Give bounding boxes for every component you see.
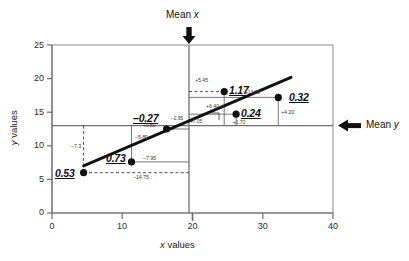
scatter-plot-svg bbox=[0, 0, 409, 261]
deviation-label-9: +6.40 bbox=[206, 104, 219, 109]
x-tick-40: 40 bbox=[324, 222, 342, 231]
x-axis bbox=[52, 213, 333, 221]
deviation-label-12: +4.20 bbox=[281, 110, 294, 115]
plot-frame bbox=[52, 45, 333, 213]
data-point bbox=[221, 88, 228, 95]
y-tick-5: 5 bbox=[30, 175, 44, 184]
x-tick-30: 30 bbox=[254, 222, 272, 231]
deviation-label-5: +0.80 bbox=[143, 123, 155, 128]
mean-x-italic: x bbox=[194, 9, 199, 20]
deviation-label-2: –14.75 bbox=[133, 175, 149, 180]
x-tick-0: 0 bbox=[45, 222, 59, 231]
y-tick-25: 25 bbox=[24, 41, 44, 50]
y-axis bbox=[47, 45, 52, 213]
chart-figure: 0 5 10 15 20 25 0 10 20 30 40 x values y… bbox=[0, 0, 409, 261]
deviation-label-8: +5.45 bbox=[195, 78, 208, 83]
y-tick-10: 10 bbox=[24, 141, 44, 150]
data-point bbox=[275, 94, 282, 101]
mean-y-prefix: Mean bbox=[366, 119, 394, 130]
y-axis-title: y values bbox=[9, 98, 19, 158]
x-axis-title: x values bbox=[160, 240, 195, 250]
x-tick-10: 10 bbox=[113, 222, 131, 231]
point-label-5: 0.24 bbox=[241, 108, 261, 119]
mean-y-label: Mean y bbox=[366, 120, 399, 130]
data-point bbox=[163, 125, 170, 132]
mean-y-italic: y bbox=[394, 119, 399, 130]
point-label-1: 0.53 bbox=[55, 168, 75, 179]
deviation-label-7: +7.05 bbox=[190, 119, 202, 124]
point-label-6: 0.32 bbox=[289, 92, 309, 103]
y-tick-15: 15 bbox=[24, 108, 44, 117]
x-tick-20: 20 bbox=[184, 222, 202, 231]
mean-y-arrow-icon bbox=[338, 120, 361, 132]
data-point bbox=[128, 158, 135, 165]
deviation-label-3: –5.80 bbox=[135, 135, 148, 140]
deviation-label-10: +13.15 bbox=[245, 90, 260, 95]
deviation-label-1: –7.3 bbox=[71, 144, 81, 149]
deviation-label-4: –7.95 bbox=[143, 156, 156, 161]
x-axis-title-rest: values bbox=[165, 239, 195, 250]
mean-x-label: Mean x bbox=[166, 10, 199, 20]
deviation-label-11: +1.70 bbox=[233, 120, 245, 125]
y-axis-title-rest: values bbox=[8, 110, 19, 140]
y-tick-20: 20 bbox=[24, 74, 44, 83]
mean-x-arrow-icon bbox=[183, 27, 196, 44]
data-point bbox=[80, 169, 87, 176]
y-tick-0: 0 bbox=[30, 208, 44, 217]
deviation-label-6: –2.95 bbox=[171, 116, 183, 121]
y-axis-title-italic: y bbox=[8, 140, 19, 145]
mean-x-prefix: Mean bbox=[166, 9, 194, 20]
data-point bbox=[233, 111, 240, 118]
point-label-2: 0.73 bbox=[106, 153, 126, 164]
